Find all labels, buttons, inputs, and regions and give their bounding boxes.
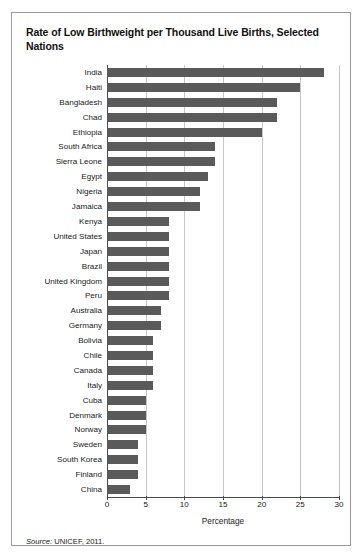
plot-area [107, 65, 339, 497]
category-axis-labels: IndiaHaitiBangladeshChadEthiopiaSouth Af… [12, 65, 102, 497]
category-label-nigeria: Nigeria [12, 187, 102, 196]
bar-italy[interactable] [107, 381, 339, 390]
bar-united-kingdom[interactable] [107, 277, 339, 286]
category-label-peru: Peru [12, 291, 102, 300]
category-label-ethiopia: Ethiopia [12, 128, 102, 137]
bar-rect [107, 232, 169, 241]
category-label-australia: Australia [12, 306, 102, 315]
x-tick-label-25: 25 [296, 500, 305, 509]
bar-rect [107, 411, 146, 420]
bar-rect [107, 187, 200, 196]
bar-rect [107, 485, 130, 494]
bar-rect [107, 336, 153, 345]
bar-rect [107, 217, 169, 226]
category-label-egypt: Egypt [12, 172, 102, 181]
bar-rect [107, 440, 138, 449]
bar-rect [107, 381, 153, 390]
bar-south-africa[interactable] [107, 142, 339, 151]
x-tick-label-15: 15 [218, 500, 227, 509]
bar-jamaica[interactable] [107, 202, 339, 211]
category-label-bangladesh: Bangladesh [12, 98, 102, 107]
bar-nigeria[interactable] [107, 187, 339, 196]
bar-rect [107, 396, 146, 405]
x-tick-label-30: 30 [334, 500, 343, 509]
bar-japan[interactable] [107, 247, 339, 256]
bar-peru[interactable] [107, 291, 339, 300]
bar-kenya[interactable] [107, 217, 339, 226]
category-label-canada: Canada [12, 366, 102, 375]
category-label-india: India [12, 68, 102, 77]
x-tick-label-5: 5 [143, 500, 148, 509]
bar-canada[interactable] [107, 366, 339, 375]
bar-germany[interactable] [107, 321, 339, 330]
category-label-chad: Chad [12, 113, 102, 122]
category-label-cuba: Cuba [12, 396, 102, 405]
category-label-norway: Norway [12, 425, 102, 434]
bar-rect [107, 351, 153, 360]
x-axis-title: Percentage [107, 516, 339, 526]
category-label-united-states: United States [12, 232, 102, 241]
category-label-italy: Italy [12, 381, 102, 390]
bar-brazil[interactable] [107, 262, 339, 271]
category-label-finland: Finland [12, 470, 102, 479]
source-label: Source: [26, 537, 52, 546]
category-label-japan: Japan [12, 247, 102, 256]
category-label-south-korea: South Korea [12, 455, 102, 464]
bar-haiti[interactable] [107, 83, 339, 92]
bar-rect [107, 306, 161, 315]
bar-bolivia[interactable] [107, 336, 339, 345]
source-note: Source: UNICEF, 2011. [26, 537, 104, 546]
bar-egypt[interactable] [107, 172, 339, 181]
bar-chad[interactable] [107, 113, 339, 122]
x-tick-label-20: 20 [257, 500, 266, 509]
category-label-jamaica: Jamaica [12, 202, 102, 211]
bar-rect [107, 247, 169, 256]
bar-rect [107, 425, 146, 434]
source-text: UNICEF, 2011. [52, 537, 104, 546]
bar-india[interactable] [107, 68, 339, 77]
x-axis-tick-labels: 051015202530 [107, 500, 339, 512]
bar-china[interactable] [107, 485, 339, 494]
bar-rect [107, 321, 161, 330]
category-label-denmark: Denmark [12, 411, 102, 420]
bar-australia[interactable] [107, 306, 339, 315]
bar-rect [107, 470, 138, 479]
bar-finland[interactable] [107, 470, 339, 479]
bar-rect [107, 98, 277, 107]
category-label-south-africa: South Africa [12, 142, 102, 151]
bar-rect [107, 113, 277, 122]
category-label-chile: Chile [12, 351, 102, 360]
bar-sweden[interactable] [107, 440, 339, 449]
bar-ethiopia[interactable] [107, 128, 339, 137]
bar-chile[interactable] [107, 351, 339, 360]
bar-rect [107, 366, 153, 375]
bar-sierra-leone[interactable] [107, 157, 339, 166]
bar-rect [107, 202, 200, 211]
bar-rect [107, 262, 169, 271]
bar-rect [107, 128, 262, 137]
bar-norway[interactable] [107, 425, 339, 434]
bar-rect [107, 291, 169, 300]
category-label-haiti: Haiti [12, 83, 102, 92]
category-label-bolivia: Bolivia [12, 336, 102, 345]
bar-rect [107, 157, 215, 166]
category-label-brazil: Brazil [12, 262, 102, 271]
bar-rect [107, 277, 169, 286]
bar-rect [107, 83, 300, 92]
category-label-germany: Germany [12, 321, 102, 330]
bar-rect [107, 142, 215, 151]
category-label-sweden: Sweden [12, 440, 102, 449]
bar-rect [107, 455, 138, 464]
bar-series [107, 65, 339, 497]
bar-rect [107, 172, 208, 181]
gridline-30 [339, 65, 340, 497]
bar-cuba[interactable] [107, 396, 339, 405]
bar-united-states[interactable] [107, 232, 339, 241]
category-label-china: China [12, 485, 102, 494]
figure-title: Rate of Low Birthweight per Thousand Liv… [26, 25, 338, 53]
x-tick-label-0: 0 [105, 500, 110, 509]
bar-south-korea[interactable] [107, 455, 339, 464]
x-tick-label-10: 10 [180, 500, 189, 509]
bar-bangladesh[interactable] [107, 98, 339, 107]
bar-denmark[interactable] [107, 411, 339, 420]
